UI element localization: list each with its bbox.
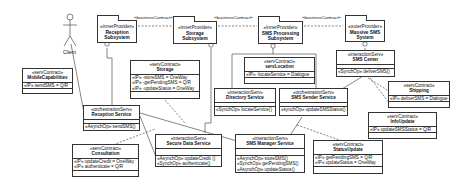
package-sms-processing-subsystem[interactable]: «innerProvider» SMS Processing Subsystem xyxy=(258,21,303,44)
package-storage-subsystem[interactable]: «innerProvider» Storage Subsystem xyxy=(173,21,217,44)
contract-storage[interactable]: «servContract»Storage «IP» -storeSMS = O… xyxy=(130,60,200,99)
class-name: StatusUpdate xyxy=(315,147,381,152)
class-name: MobileCapabilities xyxy=(24,75,71,80)
contract-row: «IP» -locateService = Dialogue xyxy=(246,72,313,77)
service-directory-service[interactable]: «interactionServ»Directory Service «Sync… xyxy=(214,88,276,116)
package-name: System xyxy=(346,35,384,41)
class-name: InfoUpdate xyxy=(370,119,435,124)
contract-info-update[interactable]: «servContract»InfoUpdate «IP» updateSMSS… xyxy=(368,112,437,139)
package-name: Subsystem xyxy=(98,35,136,41)
operation-row: «SynchOp» getPendingSMS() xyxy=(237,161,303,166)
sender-manager-link xyxy=(291,117,302,134)
class-name: servLocation xyxy=(246,64,313,69)
package-name: Subsystem xyxy=(174,36,216,42)
package-stereotype: «innerProvider» xyxy=(259,25,302,31)
storage-subsystem-link xyxy=(205,48,211,133)
contract-mobile-capabilities[interactable]: «servContract»MobileCapabilities «IP» se… xyxy=(22,68,73,94)
contract-row: «IP» -updateStatus = OneWay xyxy=(132,86,198,91)
package-stereotype: «innerProvider» xyxy=(98,24,136,30)
contract-row: «IP» -getPendingSMS = Q/R xyxy=(132,80,198,85)
package-tab xyxy=(173,16,195,22)
interface-circle xyxy=(271,44,275,48)
operation-row: «AsynchOp» updateStatus() xyxy=(237,167,303,172)
operation-row: «SynchOp» locateService() xyxy=(216,107,274,112)
interface-circle xyxy=(363,42,367,46)
shipping-contract-link xyxy=(370,78,390,104)
class-name: SMS Manager Service xyxy=(237,141,303,146)
package-massive-sms-system[interactable]: «outerProvider» Massive SMS System xyxy=(345,20,385,42)
contract-row: «IP» sendSMS = Q/R xyxy=(24,83,71,88)
reception-subsystem-link xyxy=(107,48,112,108)
contract-row: «IP» updateSMSStatus = Q/R xyxy=(370,127,435,132)
package-tab xyxy=(258,16,280,22)
operation-row: «AsynchOp» sendSMS() xyxy=(85,124,138,129)
contract-status-update[interactable]: «servContract»StatusUpdate «IP» getPendi… xyxy=(313,140,383,174)
package-tab xyxy=(345,15,367,21)
class-name: Secure Data Service xyxy=(157,141,220,146)
sender-center-link xyxy=(342,75,365,89)
operation-row: «SynchOp» authenticate() xyxy=(157,161,220,166)
contract-serv-location[interactable]: «servContract»servLocation «IP» -locateS… xyxy=(244,57,315,84)
class-name: Storage xyxy=(132,67,198,72)
class-name: Reception Service xyxy=(85,112,138,117)
service-sms-sender-service[interactable]: «orchestrationServ»SMS Sender Service «s… xyxy=(279,88,348,116)
service-reception-service[interactable]: «orchestrationServ»Reception Service «As… xyxy=(83,105,140,131)
service-secure-data-service[interactable]: «interactionServ»Secure Data Service «As… xyxy=(155,134,222,167)
package-tab xyxy=(97,15,119,21)
contract-row: «IP» authenticate = Q/R xyxy=(74,164,137,169)
reception-secure-link xyxy=(140,116,156,157)
contract-consultation[interactable]: «servContract»Consultation «IP» updateCr… xyxy=(72,144,139,177)
class-name: SMS Center xyxy=(338,57,393,62)
actor-client-label: Client xyxy=(63,49,76,55)
package-stereotype: «outerProvider» xyxy=(346,24,384,30)
contract-shipping[interactable]: «servContract»Shipping «IP» deliverSMS =… xyxy=(388,81,450,108)
business-contract-label: «businessContract» xyxy=(302,15,341,20)
package-stereotype: «innerProvider» xyxy=(174,25,216,31)
client-actor-icon xyxy=(63,14,77,46)
package-name: Subsystem xyxy=(259,36,302,42)
class-name: SMS Sender Service xyxy=(281,95,346,100)
storage-contract-link xyxy=(165,100,185,123)
class-name: Shipping xyxy=(390,88,448,93)
business-contract-label: «businessContract» xyxy=(134,15,173,20)
service-sms-manager-service[interactable]: «interactionServ»SMS Manager Service «As… xyxy=(235,134,305,173)
operation-row: «synchOp» updateSMSStatus() xyxy=(281,107,346,112)
class-name: Directory Service xyxy=(216,95,274,100)
contract-row: «IP» updateStatus = OneWay xyxy=(315,160,381,165)
business-contract-label: «businessContract» xyxy=(214,15,253,20)
class-name: Consultation xyxy=(74,151,137,156)
contract-row: «IP» deliverSMS = Dialogue xyxy=(390,96,448,101)
package-reception-subsystem[interactable]: «innerProvider» Reception Subsystem xyxy=(97,20,137,43)
service-sms-center[interactable]: «interactionServ»SMS Center «SynchOp» de… xyxy=(336,50,395,77)
operation-row: «SynchOp» deliverSMS() xyxy=(338,69,393,74)
